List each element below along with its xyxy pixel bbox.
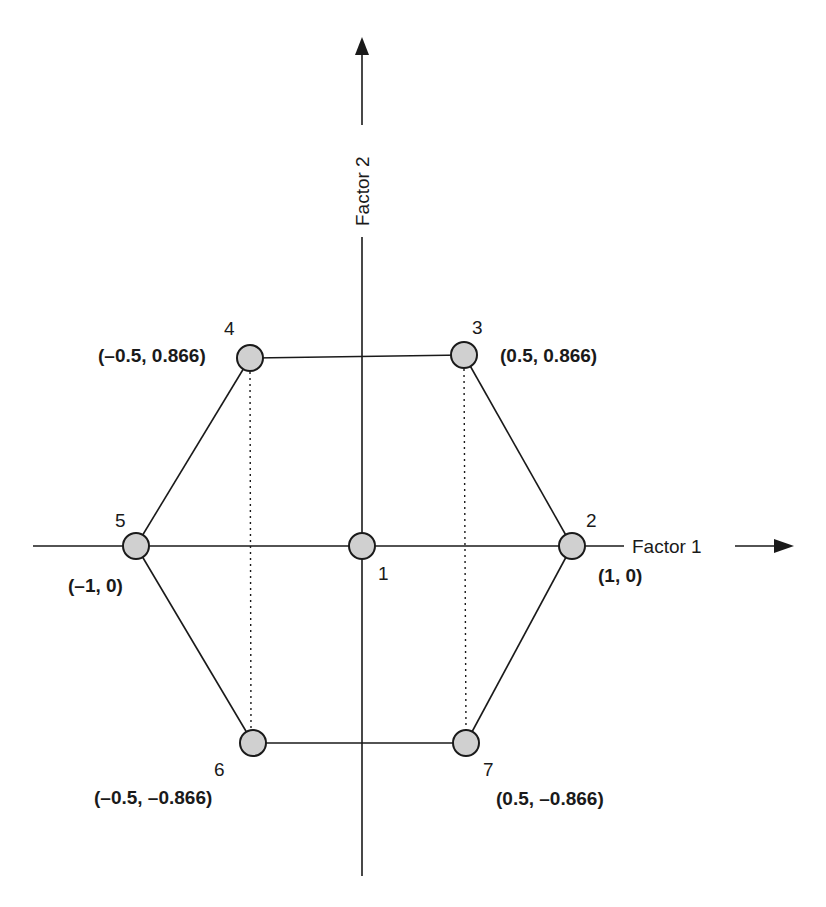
- edge-2-3: [464, 355, 572, 546]
- point-number-5: 5: [115, 510, 126, 531]
- design-point-3: [451, 342, 477, 368]
- projection-line-3-7: [464, 369, 466, 730]
- x-axis-arrowhead-icon: [774, 539, 794, 553]
- edge-7-2: [466, 546, 572, 743]
- coord-label-3: (0.5, 0.866): [500, 345, 597, 366]
- x-axis-label: Factor 1: [632, 536, 702, 557]
- coord-label-6: (–0.5, –0.866): [94, 787, 212, 808]
- y-axis-label: Factor 2: [352, 156, 373, 226]
- hexagonal-design-diagram: Factor 1 Factor 2 1 2 3 4 5 6 7 (1, 0) (…: [0, 0, 826, 907]
- point-number-7: 7: [483, 759, 494, 780]
- design-point-2: [559, 533, 585, 559]
- design-point-7: [453, 730, 479, 756]
- design-point-5: [123, 533, 149, 559]
- coord-label-4: (–0.5, 0.866): [98, 345, 206, 366]
- edge-5-6: [136, 546, 253, 743]
- design-point-6: [240, 730, 266, 756]
- y-axis-arrowhead-icon: [355, 37, 369, 55]
- point-number-2: 2: [586, 510, 597, 531]
- edge-4-5: [136, 358, 250, 546]
- coord-label-5: (–1, 0): [68, 575, 123, 596]
- coord-label-7: (0.5, –0.866): [496, 788, 604, 809]
- coord-label-2: (1, 0): [598, 565, 642, 586]
- projection-line-4-6: [250, 372, 251, 730]
- edge-3-4: [250, 355, 464, 358]
- point-number-6: 6: [214, 759, 225, 780]
- design-point-1: [349, 533, 375, 559]
- point-number-4: 4: [224, 318, 235, 339]
- design-point-4: [237, 345, 263, 371]
- point-number-3: 3: [472, 317, 483, 338]
- point-number-1: 1: [378, 563, 389, 584]
